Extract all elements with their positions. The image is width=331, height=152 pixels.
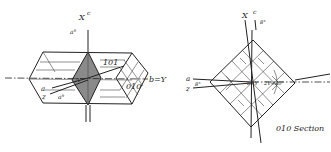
z-line <box>193 83 251 88</box>
label-z-left: z <box>41 93 46 101</box>
label-c-axis: c <box>253 8 257 15</box>
label-face-101: 101 <box>103 58 118 67</box>
label-c-axis: c <box>87 9 91 16</box>
c-axis-top <box>255 20 256 30</box>
label-face-010: 010 <box>126 82 141 91</box>
label-x-axis: X <box>241 11 248 20</box>
label-a: a <box>186 75 190 83</box>
a-line <box>193 79 251 82</box>
label-a-top: a° <box>70 28 77 35</box>
label-z: z <box>185 85 190 93</box>
label-a-deg: a° <box>58 93 65 100</box>
right-extension <box>295 74 330 80</box>
right-figure: X c 8° a z 8° b=Y 2V=80° 010 Section <box>185 8 330 143</box>
label-two-v: 2V=80° <box>263 80 284 86</box>
label-b-y: b=Y <box>149 75 167 84</box>
label-angle-top: 8° <box>260 19 266 25</box>
diagram-canvas: X c a° 101 010 b=Y a z a° 2V <box>0 0 331 152</box>
left-figure: X c a° 101 010 b=Y a z a° 2V <box>5 9 167 122</box>
label-b-y: b=Y <box>247 80 258 86</box>
caption-010-section: 010 Section <box>276 124 324 133</box>
label-angle-left: 8° <box>195 81 201 87</box>
label-x-axis: X <box>78 13 85 22</box>
label-a-left: a <box>41 85 45 93</box>
